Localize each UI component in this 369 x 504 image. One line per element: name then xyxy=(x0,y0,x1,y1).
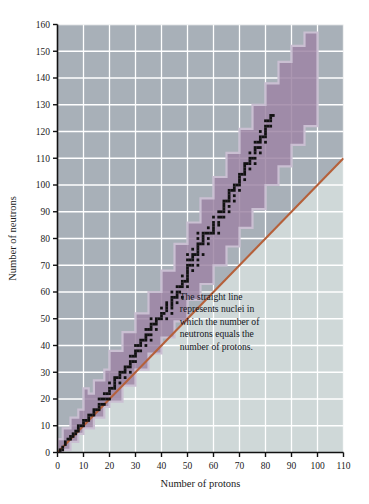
stable-nucleus-marker xyxy=(173,296,176,299)
stable-nucleus-marker xyxy=(217,232,220,235)
stable-nucleus-marker xyxy=(223,210,226,213)
annotation-line: represents nuclei in xyxy=(180,303,255,314)
stable-nucleus-marker xyxy=(233,194,236,197)
stable-nucleus-marker xyxy=(176,291,179,294)
stable-nucleus-marker xyxy=(61,448,64,451)
y-tick-label: 80 xyxy=(41,234,51,244)
stable-nucleus-marker xyxy=(100,403,103,406)
stable-nucleus-marker xyxy=(113,376,116,379)
stable-nucleus-marker xyxy=(249,162,252,165)
stable-nucleus-marker xyxy=(181,275,184,278)
stable-nucleus-marker xyxy=(181,280,184,283)
stable-nucleus-marker xyxy=(111,387,114,390)
stable-nucleus-marker xyxy=(59,448,62,451)
x-tick-label: 80 xyxy=(261,461,271,471)
stable-nucleus-marker xyxy=(243,162,246,165)
stable-nucleus-marker xyxy=(269,117,272,120)
stable-nucleus-marker xyxy=(176,301,179,304)
stable-nucleus-marker xyxy=(267,125,270,128)
stable-nucleus-marker xyxy=(134,349,137,352)
stable-nucleus-marker xyxy=(98,403,101,406)
stable-nucleus-marker xyxy=(103,398,106,401)
stable-nucleus-marker xyxy=(272,114,275,117)
stable-nucleus-marker xyxy=(95,408,98,411)
stable-nucleus-marker xyxy=(197,242,200,245)
stable-nucleus-marker xyxy=(113,387,116,390)
stable-nucleus-marker xyxy=(103,392,106,395)
stable-nucleus-marker xyxy=(264,127,267,130)
stable-nucleus-marker xyxy=(64,440,67,443)
stable-nucleus-marker xyxy=(108,390,111,393)
stable-nucleus-marker xyxy=(155,328,158,331)
stable-nucleus-marker xyxy=(113,384,116,387)
y-tick-label: 30 xyxy=(41,368,51,378)
stable-nucleus-marker xyxy=(87,419,90,422)
stable-nucleus-marker xyxy=(171,301,174,304)
stable-nucleus-marker xyxy=(197,259,200,262)
stable-nucleus-marker xyxy=(197,248,200,251)
stable-nucleus-marker xyxy=(267,119,270,122)
belt-of-stability-chart: 0102030405060708090100110120130140150160… xyxy=(0,0,369,504)
stable-nucleus-marker xyxy=(176,293,179,296)
stable-nucleus-marker xyxy=(264,119,267,122)
stable-nucleus-marker xyxy=(264,133,267,136)
x-tick-label: 70 xyxy=(235,461,245,471)
stable-nucleus-marker xyxy=(181,285,184,288)
x-tick-label: 0 xyxy=(55,461,60,471)
stable-nucleus-marker xyxy=(160,315,163,318)
stable-nucleus-marker xyxy=(197,245,200,248)
stable-nucleus-marker xyxy=(129,363,132,366)
stable-nucleus-marker xyxy=(184,280,187,283)
stable-nucleus-marker xyxy=(119,376,122,379)
stable-nucleus-marker xyxy=(210,232,213,235)
stable-nucleus-marker xyxy=(98,398,101,401)
stable-nucleus-marker xyxy=(254,141,257,144)
stable-nucleus-marker xyxy=(246,162,249,165)
stable-nucleus-marker xyxy=(87,414,90,417)
stable-nucleus-marker xyxy=(189,259,192,262)
stable-nucleus-marker xyxy=(150,333,153,336)
stable-nucleus-marker xyxy=(217,224,220,227)
y-tick-label: 100 xyxy=(36,180,51,190)
stable-nucleus-marker xyxy=(134,352,137,355)
stable-nucleus-marker xyxy=(212,226,215,229)
x-tick-label: 10 xyxy=(79,461,89,471)
stable-nucleus-marker xyxy=(124,371,127,374)
stable-nucleus-marker xyxy=(256,141,259,144)
stable-nucleus-marker xyxy=(171,299,174,302)
stable-nucleus-marker xyxy=(207,237,210,240)
stable-nucleus-marker xyxy=(165,309,168,312)
stable-nucleus-marker xyxy=(259,152,262,155)
x-tick-label: 30 xyxy=(131,461,141,471)
x-tick-label: 100 xyxy=(310,461,325,471)
stable-nucleus-marker xyxy=(69,435,72,438)
stable-nucleus-marker xyxy=(223,216,226,219)
stable-nucleus-marker xyxy=(165,307,168,310)
stable-nucleus-marker xyxy=(108,382,111,385)
stable-nucleus-marker xyxy=(165,317,168,320)
stable-nucleus-marker xyxy=(150,339,153,342)
stable-nucleus-marker xyxy=(264,130,267,133)
stable-nucleus-marker xyxy=(145,344,148,347)
stable-nucleus-marker xyxy=(217,216,220,219)
stable-nucleus-marker xyxy=(220,210,223,213)
stable-nucleus-marker xyxy=(186,277,189,280)
stable-nucleus-marker xyxy=(249,152,252,155)
stable-nucleus-marker xyxy=(186,285,189,288)
stable-nucleus-marker xyxy=(163,312,166,315)
stable-nucleus-marker xyxy=(108,387,111,390)
stable-nucleus-marker xyxy=(233,184,236,187)
stable-nucleus-marker xyxy=(191,253,194,256)
stable-nucleus-marker xyxy=(228,194,231,197)
stable-nucleus-marker xyxy=(108,398,111,401)
stable-nucleus-marker xyxy=(139,344,142,347)
stable-nucleus-marker xyxy=(171,296,174,299)
stable-nucleus-marker xyxy=(119,371,122,374)
annotation-line: number of protons. xyxy=(180,341,253,352)
stable-nucleus-marker xyxy=(228,197,231,200)
stable-nucleus-marker xyxy=(106,398,109,401)
y-tick-label: 10 xyxy=(41,421,51,431)
stable-nucleus-marker xyxy=(158,317,161,320)
stable-nucleus-marker xyxy=(145,328,148,331)
stable-nucleus-marker xyxy=(254,149,257,152)
